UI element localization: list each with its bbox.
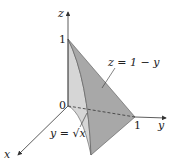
y-axis <box>135 117 166 118</box>
origin-label: 0 <box>59 100 66 111</box>
y-tick-1: 1 <box>134 120 141 131</box>
z-axis-label: z <box>58 8 64 19</box>
z-tick-1: 1 <box>59 34 66 45</box>
y-axis-label: y <box>158 120 164 131</box>
plane-leader <box>102 68 115 88</box>
plane-equation: z = 1 − y <box>108 57 159 68</box>
solid-diagram <box>0 0 171 167</box>
x-axis-label: x <box>4 149 10 160</box>
curve-equation: y = √x <box>50 128 86 139</box>
